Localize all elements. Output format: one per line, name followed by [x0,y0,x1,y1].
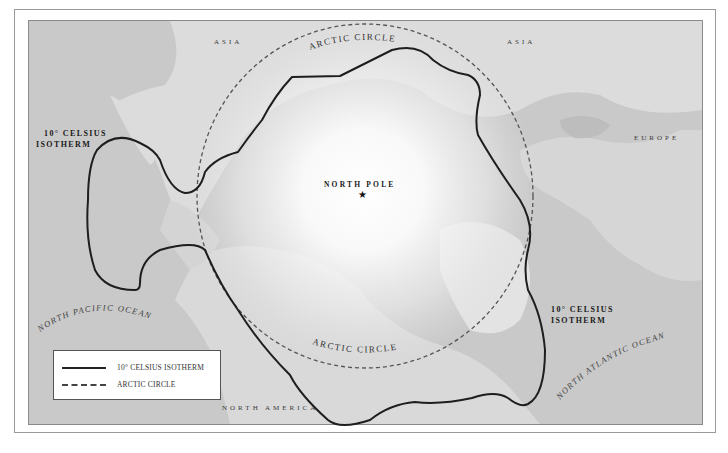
legend-item-isotherm: 10° CELSIUS ISOTHERM [62,363,204,372]
isotherm-label-left-line2: ISOTHERM [36,139,107,150]
asia-right-label: ASIA [507,38,535,46]
legend-item-arctic-circle: ARCTIC CIRCLE [62,380,176,389]
star-icon: ★ [358,189,367,200]
north-america-label: NORTH AMERICA [222,404,318,412]
map-legend: 10° CELSIUS ISOTHERM ARCTIC CIRCLE [53,350,221,400]
isotherm-label-left-line1: 10° CELSIUS [36,128,107,139]
legend-label-arctic-circle: ARCTIC CIRCLE [117,380,176,389]
north-pole-label: NORTH POLE [324,180,396,189]
dashed-line-icon [62,384,106,386]
isotherm-label-right: 10° CELSIUS ISOTHERM [551,304,614,326]
asia-left-label: ASIA [214,38,242,46]
legend-label-isotherm: 10° CELSIUS ISOTHERM [117,363,204,372]
solid-line-icon [62,367,106,369]
isotherm-label-right-line2: ISOTHERM [551,315,614,326]
isotherm-label-left: 10° CELSIUS ISOTHERM [36,128,107,150]
isotherm-label-right-line1: 10° CELSIUS [551,304,614,315]
europe-label: EUROPE [634,134,679,142]
